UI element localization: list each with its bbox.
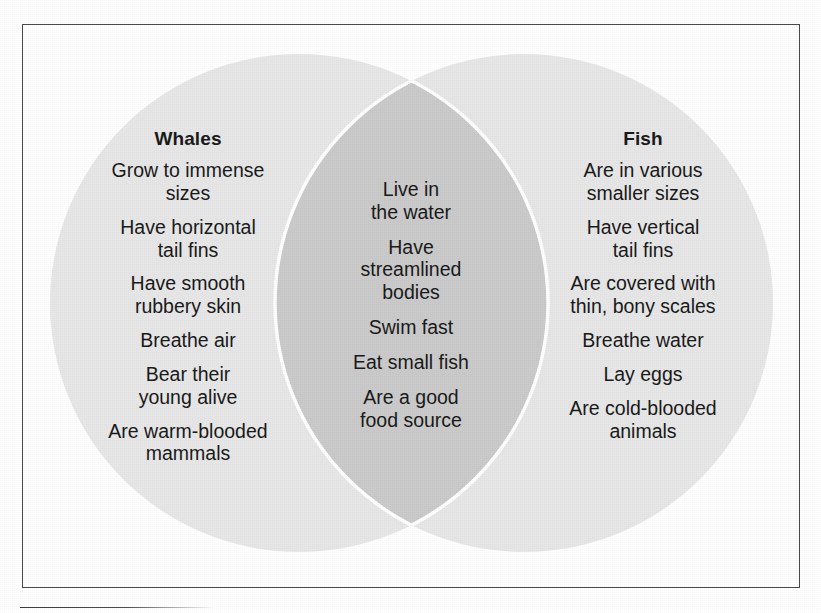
page-frame [22, 24, 800, 588]
bottom-rule [20, 607, 215, 608]
